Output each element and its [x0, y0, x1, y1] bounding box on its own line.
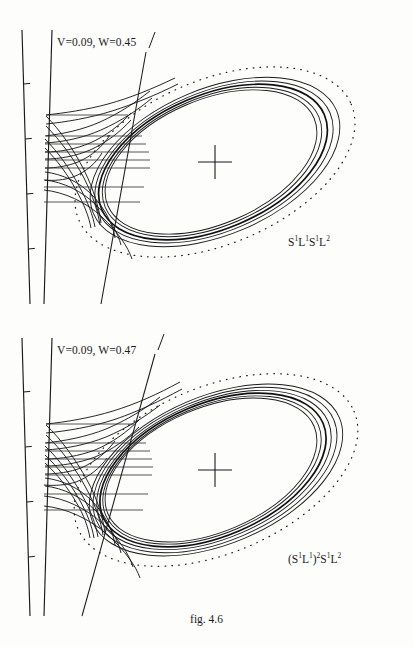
panel-bottom-plot — [0, 320, 413, 620]
lobe-strand — [46, 116, 101, 223]
vertical-axis-outer — [22, 338, 30, 616]
figure-caption: fig. 4.6 — [0, 613, 413, 625]
axis-tick — [27, 193, 34, 194]
axis-tick — [28, 248, 35, 249]
vertical-axis-outer — [22, 30, 30, 304]
vertical-axis-inner — [44, 30, 52, 304]
tangle-nose — [45, 180, 121, 245]
figure-panel-top — [0, 12, 413, 312]
lobe-curve — [46, 84, 178, 124]
vertical-axis-group-bottom — [22, 338, 52, 616]
lobe-curve-group-bottom — [44, 382, 182, 538]
panel-top-parameter-label: V=0.09, W=0.45 — [57, 36, 136, 48]
center-cross-marker-bottom — [198, 453, 232, 487]
axis-tick — [24, 391, 31, 392]
axis-tick-group-top — [24, 83, 35, 249]
lobe-curve — [45, 397, 160, 443]
vertical-axis-inner — [44, 338, 52, 616]
axis-tick — [28, 556, 35, 557]
figure-panel-bottom — [0, 320, 413, 620]
panel-bottom-sequence-label: (S1L1)2S1L2 — [288, 553, 341, 565]
axis-tick — [24, 83, 31, 84]
center-cross-marker-top — [198, 145, 232, 179]
slant-line-tick — [158, 334, 164, 350]
tangle-nose — [44, 190, 132, 259]
panel-top-sequence-label: S1L1S1L2 — [288, 236, 330, 248]
panel-top-plot — [0, 12, 413, 312]
axis-tick — [25, 138, 32, 139]
sequence-text: (S1L1)2S1L2 — [288, 553, 341, 565]
figure-page: V=0.09, W=0.45 S1L1S1L2 — [0, 0, 413, 647]
lobe-curve — [46, 78, 175, 115]
slant-line — [101, 52, 146, 304]
axis-tick — [27, 501, 34, 502]
slant-line-tick — [149, 32, 155, 48]
axis-tick-group-bottom — [24, 391, 35, 557]
panel-bottom-parameter-label: V=0.09, W=0.47 — [57, 344, 136, 356]
sequence-text: S1L1S1L2 — [288, 236, 330, 248]
vertical-axis-group-top — [22, 30, 52, 304]
axis-tick — [25, 446, 32, 447]
